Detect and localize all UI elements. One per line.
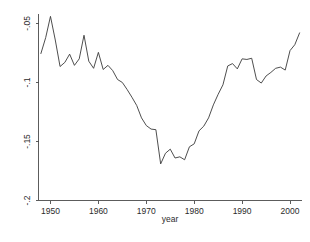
x-tick-label: 1970 [137, 206, 156, 216]
y-tick-label: -.05 [22, 16, 32, 31]
x-tick-label: 1960 [89, 206, 108, 216]
x-tick-label: 1950 [41, 206, 60, 216]
y-tick-label: -.2 [22, 195, 32, 205]
x-tick-label: 1980 [185, 206, 204, 216]
plot-area-background [38, 14, 302, 200]
x-tick-label: 1990 [233, 206, 252, 216]
y-tick-label: -.1 [22, 77, 32, 87]
line-chart-plot: -.05-.1-.15-.2 195019601970198019902000 … [0, 0, 310, 242]
chart-figure: -.05-.1-.15-.2 195019601970198019902000 … [0, 0, 310, 242]
x-tick-label: 2000 [281, 206, 300, 216]
y-tick-label: -.15 [22, 134, 32, 149]
x-axis-title: year [162, 214, 179, 224]
